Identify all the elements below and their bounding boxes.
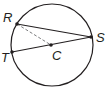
point-s: [89, 35, 93, 39]
label-s: S: [96, 30, 105, 45]
label-c: C: [52, 48, 62, 63]
point-r: [15, 22, 19, 26]
point-t: [10, 50, 14, 54]
label-r: R: [3, 10, 12, 25]
circle-diagram: R S T C: [0, 0, 109, 94]
point-c: [49, 43, 53, 47]
label-t: T: [1, 50, 10, 65]
